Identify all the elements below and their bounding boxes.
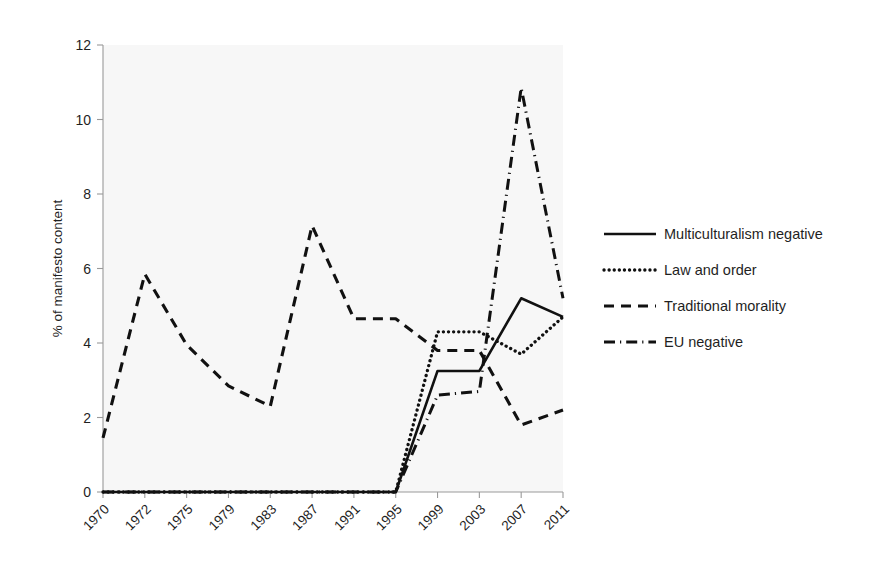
y-tick-label: 8: [83, 186, 91, 202]
legend-label: Law and order: [664, 262, 757, 278]
x-tick-label: 2011: [541, 502, 572, 533]
x-tick-label: 2003: [457, 502, 489, 534]
legend-item[interactable]: Traditional morality: [604, 298, 787, 314]
x-tick-label: 1979: [206, 502, 238, 534]
y-tick-label: 2: [83, 410, 91, 426]
x-tick-label: 1987: [289, 502, 321, 534]
line-chart: 024681012% of manifesto content197019721…: [0, 0, 882, 572]
y-tick-label: 6: [83, 261, 91, 277]
x-tick-label: 1999: [415, 502, 447, 534]
y-tick-label: 0: [83, 484, 91, 500]
y-tick-label: 10: [75, 112, 91, 128]
plot-background: [103, 45, 563, 492]
x-tick-label: 2007: [498, 502, 530, 534]
x-tick-label: 1970: [80, 502, 112, 534]
y-axis-title: % of manifesto content: [50, 200, 65, 338]
x-tick-label: 1995: [373, 502, 405, 534]
chart-figure: 024681012% of manifesto content197019721…: [0, 0, 882, 572]
legend-label: Multiculturalism negative: [664, 226, 823, 242]
legend-label: Traditional morality: [664, 298, 787, 314]
legend-label: EU negative: [664, 334, 743, 350]
legend-item[interactable]: Law and order: [604, 262, 757, 278]
y-tick-label: 4: [83, 335, 91, 351]
y-tick-label: 12: [75, 37, 91, 53]
x-tick-label: 1983: [248, 502, 280, 534]
legend-item[interactable]: Multiculturalism negative: [604, 226, 823, 242]
x-tick-label: 1975: [164, 502, 196, 534]
x-tick-label: 1991: [331, 502, 363, 534]
x-tick-label: 1972: [122, 502, 154, 534]
legend-item[interactable]: EU negative: [604, 334, 743, 350]
